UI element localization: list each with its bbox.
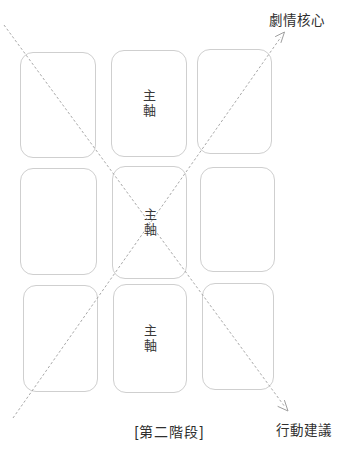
card-row1-col2: 主軸 xyxy=(111,50,187,157)
arrow-up-right-icon xyxy=(276,32,285,43)
card-row3-col3 xyxy=(202,283,274,390)
arrow-down-right-icon xyxy=(278,401,288,412)
card-label-main-axis: 主軸 xyxy=(141,324,160,354)
card-label-main-axis: 主軸 xyxy=(140,208,159,238)
card-row2-col3 xyxy=(200,167,275,272)
spread-diagram: 主軸 主軸 主軸 劇情核心 行動建議 [第二階段] xyxy=(0,0,339,450)
card-row3-col1 xyxy=(23,285,98,392)
card-row1-col3 xyxy=(197,49,272,154)
axis-label-plot-core: 劇情核心 xyxy=(269,9,325,29)
card-row2-col2: 主軸 xyxy=(112,166,187,279)
card-label-main-axis: 主軸 xyxy=(140,89,159,119)
card-row3-col2: 主軸 xyxy=(113,284,187,393)
card-row2-col1 xyxy=(20,168,97,275)
stage-caption: [第二階段] xyxy=(0,421,339,441)
card-row1-col1 xyxy=(20,52,96,158)
